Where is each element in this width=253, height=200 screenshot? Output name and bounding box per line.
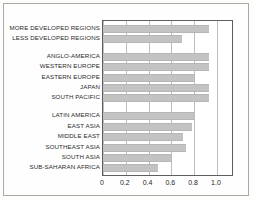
- bar-row: [103, 133, 234, 141]
- x-tick-label: 1.0: [211, 178, 221, 188]
- figure-border: MORE DEVELOPED REGIONSLESS DEVELOPED REG…: [3, 3, 249, 196]
- bar: [103, 74, 194, 82]
- bar: [103, 94, 209, 102]
- bar: [103, 35, 182, 43]
- category-axis-labels: MORE DEVELOPED REGIONSLESS DEVELOPED REG…: [4, 20, 100, 176]
- category-label: SUB-SAHARAN AFRICA: [4, 163, 100, 171]
- bar: [103, 123, 192, 131]
- x-tick-label: 0.4: [143, 178, 153, 188]
- category-label: ANGLO-AMERICA: [4, 52, 100, 60]
- category-label: SOUTH ASIA: [4, 153, 100, 161]
- x-tick-label: 0.2: [120, 178, 130, 188]
- bar: [103, 63, 209, 71]
- bar-row: [103, 63, 234, 71]
- bar: [103, 25, 209, 33]
- bar-row: [103, 74, 234, 82]
- category-label: EAST ASIA: [4, 122, 100, 130]
- bar-row: [103, 123, 234, 131]
- category-label: EASTERN EUROPE: [4, 73, 100, 81]
- bar-series: [103, 21, 234, 177]
- bar-row: [103, 35, 234, 43]
- x-tick-label: 0: [100, 178, 104, 188]
- x-tick-label: 0.6: [165, 178, 175, 188]
- bar: [103, 164, 158, 172]
- category-label: SOUTH PACIFIC: [4, 93, 100, 101]
- bar: [103, 84, 209, 92]
- category-label: LATIN AMERICA: [4, 111, 100, 119]
- bar: [103, 53, 209, 61]
- bar-row: [103, 164, 234, 172]
- bar-row: [103, 94, 234, 102]
- bar: [103, 144, 186, 152]
- chart-figure: MORE DEVELOPED REGIONSLESS DEVELOPED REG…: [0, 0, 253, 200]
- bar: [103, 112, 194, 120]
- bar-row: [103, 144, 234, 152]
- bar: [103, 133, 183, 141]
- bar-row: [103, 112, 234, 120]
- plot-area: [102, 20, 233, 176]
- bar-row: [103, 53, 234, 61]
- category-label: WESTERN EUROPE: [4, 62, 100, 70]
- bar-row: [103, 154, 234, 162]
- category-label: JAPAN: [4, 83, 100, 91]
- category-label: MIDDLE EAST: [4, 132, 100, 140]
- bar-row: [103, 84, 234, 92]
- value-axis-labels: 00.20.40.60.81.0: [102, 178, 233, 192]
- category-label: SOUTHEAST ASIA: [4, 143, 100, 151]
- bar: [103, 154, 171, 162]
- x-tick-label: 0.8: [188, 178, 198, 188]
- category-label: LESS DEVELOPED REGIONS: [4, 34, 100, 42]
- bar-row: [103, 25, 234, 33]
- category-label: MORE DEVELOPED REGIONS: [4, 24, 100, 32]
